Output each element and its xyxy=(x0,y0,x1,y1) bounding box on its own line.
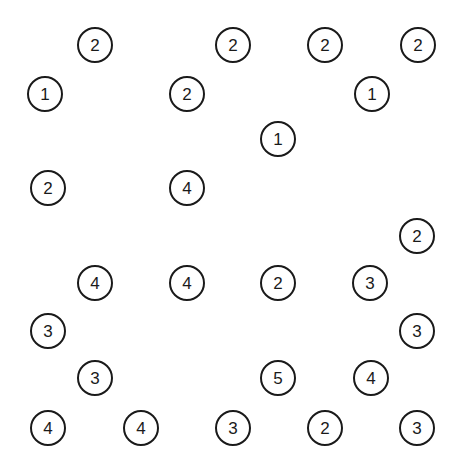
circle-node-label: 3 xyxy=(412,420,421,437)
circle-node-label: 4 xyxy=(182,180,191,197)
circle-node-label: 2 xyxy=(320,420,329,437)
circle-node[interactable]: 3 xyxy=(352,265,388,301)
circle-node[interactable]: 3 xyxy=(215,410,251,446)
circle-node[interactable]: 2 xyxy=(400,27,436,63)
circle-node-label: 2 xyxy=(90,37,99,54)
circle-node[interactable]: 2 xyxy=(307,410,343,446)
circle-node[interactable]: 3 xyxy=(30,313,66,349)
circle-node-label: 2 xyxy=(182,86,191,103)
circle-node-label: 3 xyxy=(228,420,237,437)
circle-node-label: 2 xyxy=(320,37,329,54)
circle-node-label: 3 xyxy=(412,323,421,340)
circle-node-label: 2 xyxy=(228,37,237,54)
circle-node-label: 3 xyxy=(43,323,52,340)
circle-node[interactable]: 3 xyxy=(399,313,435,349)
circle-node-label: 5 xyxy=(273,370,282,387)
circle-node-label: 3 xyxy=(90,370,99,387)
circle-node-label: 1 xyxy=(367,86,376,103)
circle-node-label: 4 xyxy=(90,275,99,292)
circle-node[interactable]: 4 xyxy=(30,410,66,446)
circle-node-label: 3 xyxy=(365,275,374,292)
circle-node-label: 4 xyxy=(366,370,375,387)
circle-node[interactable]: 2 xyxy=(77,27,113,63)
circle-node[interactable]: 4 xyxy=(169,265,205,301)
circle-node[interactable]: 2 xyxy=(399,218,435,254)
circle-node[interactable]: 5 xyxy=(260,360,296,396)
circle-node[interactable]: 1 xyxy=(27,76,63,112)
circle-node[interactable]: 2 xyxy=(215,27,251,63)
circle-node[interactable]: 1 xyxy=(260,121,296,157)
circle-node-label: 2 xyxy=(43,180,52,197)
circle-node[interactable]: 3 xyxy=(399,410,435,446)
circle-node-label: 4 xyxy=(182,275,191,292)
circle-node[interactable]: 1 xyxy=(354,76,390,112)
circle-node[interactable]: 4 xyxy=(169,170,205,206)
circle-node-label: 2 xyxy=(412,228,421,245)
circle-node[interactable]: 2 xyxy=(307,27,343,63)
diagram-canvas: 2222121124244233335444323 xyxy=(0,0,462,471)
circle-node[interactable]: 4 xyxy=(353,360,389,396)
circle-node-label: 1 xyxy=(273,131,282,148)
circle-node-label: 2 xyxy=(413,37,422,54)
circle-node[interactable]: 4 xyxy=(77,265,113,301)
circle-node-label: 1 xyxy=(40,86,49,103)
circle-node[interactable]: 3 xyxy=(77,360,113,396)
circle-node-label: 2 xyxy=(273,275,282,292)
circle-node-label: 4 xyxy=(136,420,145,437)
circle-node[interactable]: 2 xyxy=(260,265,296,301)
circle-node[interactable]: 2 xyxy=(169,76,205,112)
circle-node[interactable]: 4 xyxy=(123,410,159,446)
circle-node[interactable]: 2 xyxy=(30,170,66,206)
circle-node-label: 4 xyxy=(43,420,52,437)
